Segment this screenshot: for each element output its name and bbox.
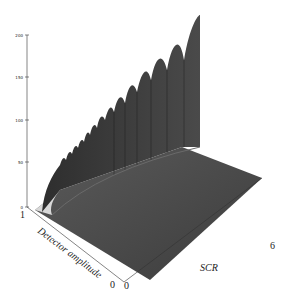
x-axis-title: SCR [200, 262, 218, 273]
z-axis [25, 35, 29, 207]
z-tick-150: 150 [15, 75, 23, 80]
y-tick-0: 0 [110, 279, 115, 290]
surface-plot: 200 150 100 50 0 1 0 Detector amplitude … [0, 0, 290, 305]
x-tick-6: 6 [270, 240, 275, 251]
y-tick-1: 1 [20, 209, 25, 220]
x-tick-0: 0 [124, 280, 129, 291]
z-tick-50: 50 [18, 160, 24, 165]
z-tick-200: 200 [15, 33, 23, 38]
z-tick-100: 100 [15, 118, 23, 123]
